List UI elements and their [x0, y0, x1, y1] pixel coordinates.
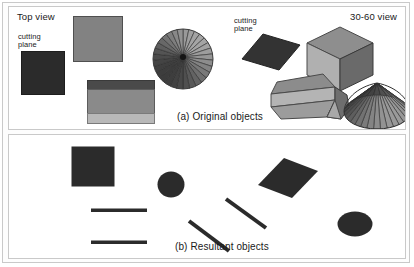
cube-top-view-square [73, 16, 123, 62]
cone-3d [342, 81, 406, 130]
figure-root: Top view 30-60 view cutting plane cuttin… [0, 0, 414, 267]
result-parallelogram [257, 157, 319, 199]
result-ellipse [337, 211, 373, 237]
result-circle [157, 171, 185, 198]
thirty-sixty-view-label: 30-60 view [350, 12, 397, 22]
panel-original-objects: Top view 30-60 view cutting plane cuttin… [8, 6, 406, 130]
caption-panel-b: (b) Resultant objects [175, 241, 269, 252]
cone-top-view-radial-disk [152, 28, 214, 90]
result-line-upper [91, 208, 147, 213]
result-line-lower [91, 240, 147, 245]
result-square [71, 146, 115, 187]
cutting-plane-parallelogram [241, 33, 301, 71]
top-view-label: Top view [17, 12, 55, 22]
panel-resultant-objects: (b) Resultant objects [8, 134, 406, 259]
caption-panel-a: (a) Original objects [177, 111, 263, 122]
cutting-plane-label-top-line2: plane [18, 41, 37, 50]
cutting-plane-square [21, 51, 65, 95]
prism-top-view-banded-rectangle [87, 80, 155, 124]
